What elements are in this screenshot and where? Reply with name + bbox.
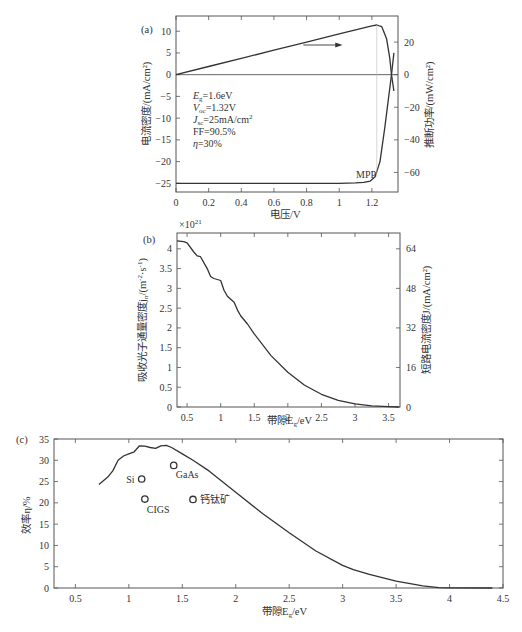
svg-text:Jsc=25mA/cm2: Jsc=25mA/cm2 xyxy=(193,113,253,127)
arrowhead-icon xyxy=(335,43,342,48)
panel-a-xlabel: 电压/V xyxy=(270,208,301,220)
x-tick-label: 0.8 xyxy=(300,197,313,208)
panel-a-ylabel-left: 电流密度/(mA/cm²) xyxy=(140,61,153,146)
y-right-tick-label: 16 xyxy=(406,362,416,373)
y-tick-label: 0 xyxy=(166,69,171,80)
y-tick-label: 35 xyxy=(39,434,49,445)
y-tick-label: 20 xyxy=(39,497,49,508)
x-tick-label: 1.5 xyxy=(248,412,261,423)
panel-a-label: (a) xyxy=(141,24,153,36)
y-tick-label: 2.5 xyxy=(160,303,173,314)
y-tick-label: −25 xyxy=(155,178,171,189)
x-tick-label: 2 xyxy=(233,593,238,604)
y-tick-label: 25 xyxy=(39,476,49,487)
panel-a-ylabel-right: 推断功率/(mW/cm²) xyxy=(423,61,436,148)
y-tick-label: 0 xyxy=(44,583,49,594)
x-tick-label: 4 xyxy=(447,593,452,604)
material-label: Si xyxy=(126,474,135,485)
y-tick-label: −5 xyxy=(160,91,171,102)
y-tick-label: 5 xyxy=(44,561,49,572)
y-tick-label: 15 xyxy=(39,519,49,530)
panel-b-xlabel: 带隙Eg/eV xyxy=(267,414,312,428)
x-tick-label: 1 xyxy=(126,593,131,604)
panel-c-ylabel: 效率η/% xyxy=(20,496,32,533)
y-right-tick-label: 32 xyxy=(406,322,416,333)
y-tick-label: 5 xyxy=(166,47,171,58)
y-tick-label: 1 xyxy=(167,362,172,373)
y-tick-label: 3.5 xyxy=(160,263,173,274)
y-right-tick-label: 0 xyxy=(406,402,411,413)
x-tick-label: 1 xyxy=(218,412,223,423)
y-right-tick-label: −60 xyxy=(404,167,420,178)
material-label: 钙钛矿 xyxy=(200,493,230,505)
x-tick-label: 3.5 xyxy=(390,593,403,604)
y-tick-label: 1.5 xyxy=(160,342,173,353)
x-tick-label: 0.6 xyxy=(268,197,281,208)
axes-frame xyxy=(54,439,503,588)
axes-frame xyxy=(177,233,400,407)
x-tick-label: 0 xyxy=(174,197,179,208)
y-tick-label: 2 xyxy=(167,322,172,333)
x-tick-label: 3 xyxy=(352,412,357,423)
panel-c-label: (c) xyxy=(16,434,28,446)
data-series-line xyxy=(176,25,394,91)
y-right-tick-label: −20 xyxy=(404,102,420,113)
y-tick-label: 3 xyxy=(167,283,172,294)
x-tick-label: 0.2 xyxy=(202,197,215,208)
data-series-line xyxy=(177,241,399,407)
material-marker xyxy=(138,476,144,482)
panel-a-annotation: Eg=1.6eV Voc=1.32V Jsc=25mA/cm2 FF=90.5%… xyxy=(192,90,253,149)
panel-b-chart: 0.511.522.533.500.511.522.533.5401632486… xyxy=(160,233,417,423)
y-tick-label: 10 xyxy=(39,540,49,551)
svg-text:FF=90.5%: FF=90.5% xyxy=(193,126,236,137)
material-marker xyxy=(171,462,177,468)
data-series-line xyxy=(99,445,492,588)
panel-c-xlabel: 带隙Eg/eV xyxy=(262,605,307,619)
y-right-tick-label: 48 xyxy=(406,283,416,294)
y-tick-label: −20 xyxy=(155,156,171,167)
figure: 00.20.40.60.811.21050−5−10−15−20−25200−2… xyxy=(0,0,522,632)
panel-b-ylabel-left: 吸收光子通量密度jn/(m-2·s-1) xyxy=(136,258,150,382)
panel-b-label: (b) xyxy=(143,234,156,246)
panel-c-chart: 0.511.522.533.544.505101520253035SiGaAsC… xyxy=(39,434,509,605)
x-tick-label: 3.5 xyxy=(382,412,395,423)
y-tick-label: 10 xyxy=(161,26,171,37)
panel-b-ylabel-right: 短路电流密度J/(mA/cm²) xyxy=(420,265,433,374)
y-right-tick-label: 64 xyxy=(406,243,416,254)
material-marker xyxy=(142,496,148,502)
y-tick-label: 0.5 xyxy=(160,382,173,393)
x-tick-label: 1.2 xyxy=(366,197,379,208)
x-tick-label: 0.5 xyxy=(181,412,194,423)
material-label: GaAs xyxy=(176,469,199,480)
material-label: CIGS xyxy=(147,504,170,515)
y-tick-label: 0 xyxy=(167,402,172,413)
y-right-tick-label: −40 xyxy=(404,134,420,145)
panel-b-multiplier: ×1021 xyxy=(179,218,202,230)
x-tick-label: 0.4 xyxy=(235,197,248,208)
x-tick-label: 2.5 xyxy=(283,593,296,604)
y-tick-label: 30 xyxy=(39,455,49,466)
x-tick-label: 0.5 xyxy=(69,593,82,604)
x-tick-label: 3 xyxy=(340,593,345,604)
x-tick-label: 1 xyxy=(337,197,342,208)
material-marker xyxy=(190,496,196,502)
y-tick-label: 4 xyxy=(167,243,172,254)
x-tick-label: 1.5 xyxy=(176,593,189,604)
x-tick-label: 4.5 xyxy=(497,593,510,604)
y-tick-label: −15 xyxy=(155,134,171,145)
y-tick-label: −10 xyxy=(155,113,171,124)
y-right-tick-label: 20 xyxy=(404,37,414,48)
mpp-label: MPP xyxy=(356,169,376,180)
svg-text:η=30%: η=30% xyxy=(193,138,222,149)
y-right-tick-label: 0 xyxy=(404,69,409,80)
x-tick-label: 2.5 xyxy=(315,412,328,423)
